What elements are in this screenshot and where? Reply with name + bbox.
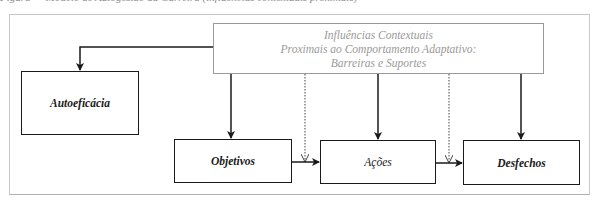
desfechos-label: Desfechos — [497, 157, 546, 169]
acoes-label: Ações — [364, 156, 391, 168]
header-line-3: Barreiras e Suportes — [331, 56, 426, 70]
acoes-box: Ações — [320, 140, 436, 184]
objetivos-box: Objetivos — [174, 139, 292, 183]
header-line-2: Proximais ao Comportamento Adaptativo: — [281, 42, 477, 56]
desfechos-box: Desfechos — [463, 140, 580, 185]
arrow-header-to-autoeficacia — [80, 47, 213, 70]
autoeficacia-box: Autoeficácia — [21, 71, 139, 135]
contextual-influences-box: Influências Contextuais Proximais ao Com… — [213, 23, 544, 74]
autoeficacia-label: Autoeficácia — [50, 97, 110, 109]
objetivos-label: Objetivos — [211, 155, 255, 167]
header-line-1: Influências Contextuais — [324, 28, 433, 42]
